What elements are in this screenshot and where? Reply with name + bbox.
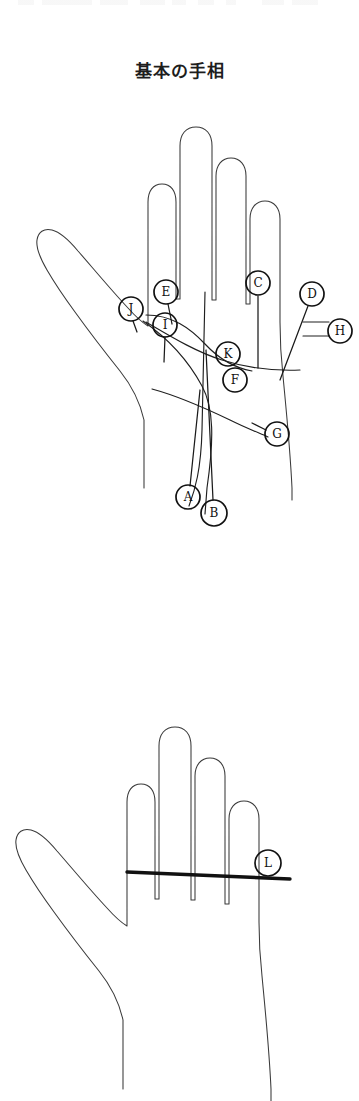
- plain-hand-outline-group: [16, 727, 271, 1101]
- marker-letter-G: G: [272, 427, 282, 441]
- marker-I[interactable]: I: [153, 313, 177, 337]
- leader-line-J: [133, 321, 137, 332]
- leader-line-D: [280, 306, 308, 380]
- marker-letter-D: D: [307, 287, 317, 301]
- marker-letter-F: F: [231, 373, 239, 387]
- page-title: 基本の手相: [0, 57, 359, 82]
- marker-letter-J: J: [127, 302, 134, 316]
- labelled-palm-diagram: J E I C D H K: [0, 90, 359, 550]
- marker-L[interactable]: L: [255, 850, 281, 876]
- marker-letter-E: E: [162, 285, 171, 299]
- marker-letter-C: C: [253, 276, 262, 290]
- top-edge-artifact: [0, 0, 359, 5]
- page-canvas: 基本の手相: [0, 0, 359, 1101]
- marker-F[interactable]: F: [223, 368, 247, 392]
- marker-H[interactable]: H: [328, 319, 352, 343]
- marker-letter-K: K: [224, 347, 234, 361]
- marker-C[interactable]: C: [246, 271, 270, 295]
- life-line: [143, 321, 212, 514]
- leader-line-G: [252, 423, 266, 430]
- marker-letter-L: L: [264, 856, 272, 870]
- marker-B[interactable]: B: [201, 500, 227, 526]
- marker-J[interactable]: J: [119, 297, 143, 321]
- marker-E[interactable]: E: [154, 280, 178, 304]
- marker-group: J E I C D H K: [119, 271, 352, 526]
- marker-D[interactable]: D: [300, 282, 324, 306]
- plain-hand-outline-path: [16, 727, 271, 1101]
- marker-letter-H: H: [335, 324, 345, 338]
- marker-letter-B: B: [210, 506, 219, 520]
- marker-letter-A: A: [183, 490, 193, 504]
- leader-line-I: [164, 337, 165, 362]
- marker-G[interactable]: G: [265, 422, 289, 446]
- single-line-palm-diagram: L: [0, 600, 359, 1101]
- marker-A[interactable]: A: [176, 485, 200, 509]
- marker-letter-I: I: [163, 318, 168, 332]
- marker-K[interactable]: K: [216, 342, 240, 366]
